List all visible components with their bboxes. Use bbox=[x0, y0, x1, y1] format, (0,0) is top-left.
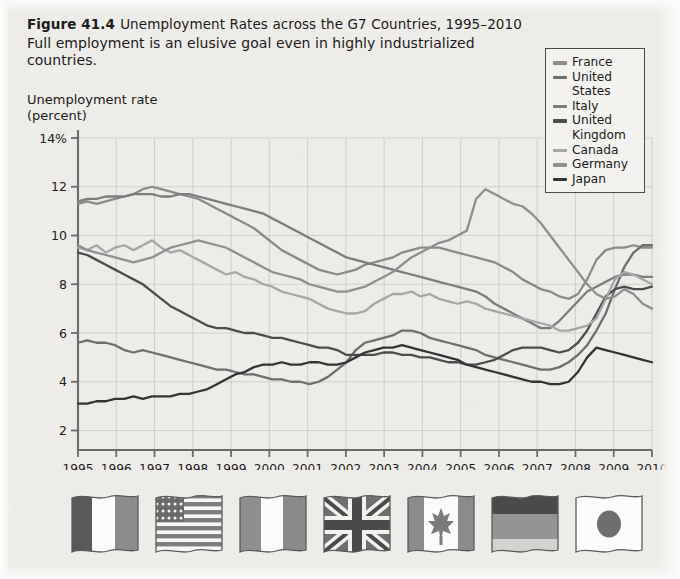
svg-text:1997: 1997 bbox=[139, 462, 170, 470]
svg-text:8: 8 bbox=[59, 277, 67, 292]
svg-text:2003: 2003 bbox=[369, 462, 400, 470]
svg-text:14%: 14% bbox=[39, 131, 67, 146]
flag-italy bbox=[236, 488, 306, 568]
svg-text:1999: 1999 bbox=[216, 462, 247, 470]
svg-text:2: 2 bbox=[59, 423, 67, 438]
svg-text:12: 12 bbox=[51, 179, 67, 194]
svg-text:2004: 2004 bbox=[407, 462, 438, 470]
svg-text:6: 6 bbox=[59, 326, 67, 341]
series-line-united-kingdom bbox=[78, 253, 652, 365]
legend-item-japan[interactable]: Japan bbox=[553, 172, 639, 187]
legend-label: United Kingdom bbox=[572, 113, 626, 142]
legend-item-germany[interactable]: Germany bbox=[553, 157, 639, 172]
legend-label: Canada bbox=[572, 143, 618, 158]
legend-swatch-icon bbox=[553, 149, 567, 153]
figure-page: · · Figure 41.4 Unemployment Rates acros… bbox=[0, 0, 680, 579]
chart-series bbox=[78, 187, 652, 404]
legend-swatch-icon bbox=[553, 105, 567, 109]
svg-text:2008: 2008 bbox=[560, 462, 591, 470]
series-line-italy bbox=[78, 194, 652, 328]
legend-swatch-icon bbox=[553, 61, 567, 65]
svg-text:2005: 2005 bbox=[445, 462, 476, 470]
svg-text:2007: 2007 bbox=[522, 462, 553, 470]
svg-text:2002: 2002 bbox=[330, 462, 361, 470]
legend-swatch-icon bbox=[553, 163, 567, 167]
svg-text:4: 4 bbox=[59, 374, 67, 389]
flag-germany bbox=[488, 488, 558, 568]
chart-legend[interactable]: FranceUnited StatesItalyUnited KingdomCa… bbox=[545, 48, 645, 193]
flag-canada bbox=[404, 488, 474, 568]
svg-text:10: 10 bbox=[51, 228, 67, 243]
legend-label: Japan bbox=[572, 172, 606, 187]
svg-text:2001: 2001 bbox=[292, 462, 323, 470]
legend-swatch-icon bbox=[553, 76, 567, 80]
legend-item-united-states[interactable]: United States bbox=[553, 70, 639, 99]
svg-text:1996: 1996 bbox=[101, 462, 132, 470]
legend-item-united-kingdom[interactable]: United Kingdom bbox=[553, 113, 639, 142]
legend-label: Germany bbox=[572, 157, 628, 172]
svg-text:1998: 1998 bbox=[177, 462, 208, 470]
legend-item-france[interactable]: France bbox=[553, 55, 639, 70]
svg-text:2010: 2010 bbox=[636, 462, 667, 470]
svg-text:2009: 2009 bbox=[598, 462, 629, 470]
legend-item-italy[interactable]: Italy bbox=[553, 99, 639, 114]
legend-label: France bbox=[572, 55, 613, 70]
legend-label: Italy bbox=[572, 99, 598, 114]
legend-item-canada[interactable]: Canada bbox=[553, 143, 639, 158]
svg-text:2000: 2000 bbox=[254, 462, 285, 470]
flag-united-kingdom bbox=[320, 488, 390, 568]
flag-united-states bbox=[152, 488, 222, 568]
svg-text:1995: 1995 bbox=[62, 462, 93, 470]
svg-text:2006: 2006 bbox=[483, 462, 514, 470]
legend-swatch-icon bbox=[553, 178, 567, 182]
flag-row bbox=[0, 484, 680, 572]
flag-france bbox=[68, 488, 138, 568]
legend-label: United States bbox=[572, 70, 612, 99]
flag-japan bbox=[572, 488, 642, 568]
legend-swatch-icon bbox=[553, 119, 567, 123]
series-line-france bbox=[78, 187, 652, 299]
